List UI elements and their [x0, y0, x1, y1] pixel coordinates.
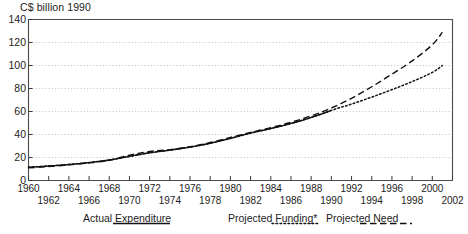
gridlines	[30, 20, 452, 158]
legend-label: Projected Need	[326, 212, 398, 224]
plot-frame	[29, 20, 453, 181]
plot-border	[29, 20, 453, 181]
legend-label: Actual Expenditure	[83, 212, 171, 224]
series-line-actual-expenditure	[29, 110, 332, 167]
legend-label: Projected Funding*	[228, 212, 317, 224]
axis-ticks	[29, 20, 453, 181]
data-series	[29, 32, 443, 168]
legend-item-projected-funding[interactable]: Projected Funding*	[228, 212, 317, 224]
legend-item-projected-need[interactable]: Projected Need	[326, 212, 398, 224]
series-line-projected-need	[29, 32, 443, 168]
legend-item-actual-expenditure[interactable]: Actual Expenditure	[83, 212, 171, 224]
